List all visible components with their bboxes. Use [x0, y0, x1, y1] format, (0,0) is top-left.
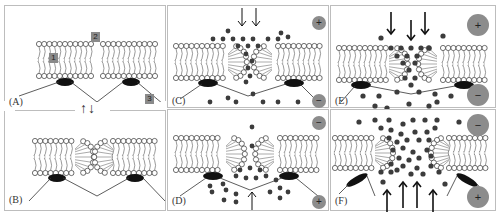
callout-3: 3	[145, 94, 154, 104]
pore-ions-down-illustration	[168, 6, 330, 109]
negative-charge-icon: −	[467, 84, 489, 106]
panel-label-b: (B)	[9, 194, 22, 205]
positive-charge-icon: +	[312, 195, 326, 209]
panel-label-c: (C)	[172, 95, 185, 106]
panel-a: 1 2 3 (A)	[4, 5, 166, 101]
pore-ions-up-illustration	[168, 110, 330, 212]
bilayer-curving-illustration	[5, 111, 167, 211]
panel-label-d: (D)	[172, 195, 186, 206]
negative-charge-icon: −	[467, 114, 489, 136]
bilayer-intact-illustration	[5, 6, 167, 102]
panel-label-f: (F)	[335, 195, 347, 206]
panel-e: + − (E)	[330, 5, 496, 108]
positive-charge-icon: +	[467, 14, 489, 36]
negative-charge-icon: −	[312, 94, 326, 108]
panel-f: − + (F)	[330, 109, 496, 211]
panel-b: (B)	[4, 111, 166, 211]
panel-label-e: (E)	[335, 95, 348, 106]
callout-2: 2	[91, 32, 100, 42]
panel-c: + − (C)	[167, 5, 329, 108]
negative-charge-icon: −	[312, 116, 326, 130]
positive-charge-icon: +	[467, 186, 489, 208]
positive-charge-icon: +	[312, 16, 326, 30]
panel-d: − + (D)	[167, 109, 329, 211]
callout-1: 1	[49, 53, 58, 63]
panel-label-a: (A)	[9, 96, 23, 107]
